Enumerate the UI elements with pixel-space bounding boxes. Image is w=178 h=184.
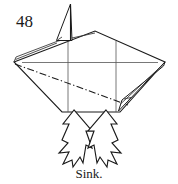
push-arrow-left: [59, 110, 92, 167]
figure-caption: Sink.: [75, 166, 102, 181]
origami-diagram: 48 Sink.: [0, 0, 178, 184]
push-arrow-right: [88, 110, 121, 167]
origami-figure-panel: 48 Sink.: [0, 0, 178, 184]
top-spike-flap: [57, 4, 73, 41]
step-number: 48: [16, 12, 33, 31]
